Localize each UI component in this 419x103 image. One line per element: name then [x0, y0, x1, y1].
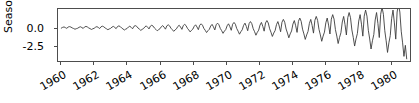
x-tick-mark — [259, 62, 260, 65]
seasonal-line-chart — [58, 9, 410, 61]
seasonal-series-line — [61, 9, 406, 59]
x-tick-mark — [193, 62, 194, 65]
x-tick-mark — [160, 62, 161, 65]
x-tick-label: 1976 — [303, 68, 334, 93]
x-tick-label: 1978 — [336, 68, 367, 93]
y-axis-tick-labels: 0.0-2.5 — [0, 0, 52, 103]
x-tick-mark — [226, 62, 227, 65]
x-tick-mark — [93, 62, 94, 65]
x-tick-label: 1962 — [71, 68, 102, 93]
x-tick-label: 1964 — [104, 68, 135, 93]
x-tick-label: 1970 — [203, 68, 234, 93]
x-tick-mark — [126, 62, 127, 65]
y-tick-label: -2.5 — [23, 40, 44, 53]
x-tick-mark — [358, 62, 359, 65]
x-tick-label: 1980 — [369, 68, 400, 93]
chart-figure: Seasonal 0.0-2.5 19601962196419661968197… — [0, 0, 419, 103]
plot-area — [57, 8, 411, 62]
x-tick-label: 1966 — [137, 68, 168, 93]
y-tick-label: 0.0 — [27, 21, 45, 34]
x-tick-mark — [325, 62, 326, 65]
x-tick-label: 1972 — [237, 68, 268, 93]
x-tick-mark — [292, 62, 293, 65]
x-tick-label: 1974 — [270, 68, 301, 93]
x-tick-mark — [391, 62, 392, 65]
x-tick-mark — [60, 62, 61, 65]
x-tick-label: 1968 — [170, 68, 201, 93]
